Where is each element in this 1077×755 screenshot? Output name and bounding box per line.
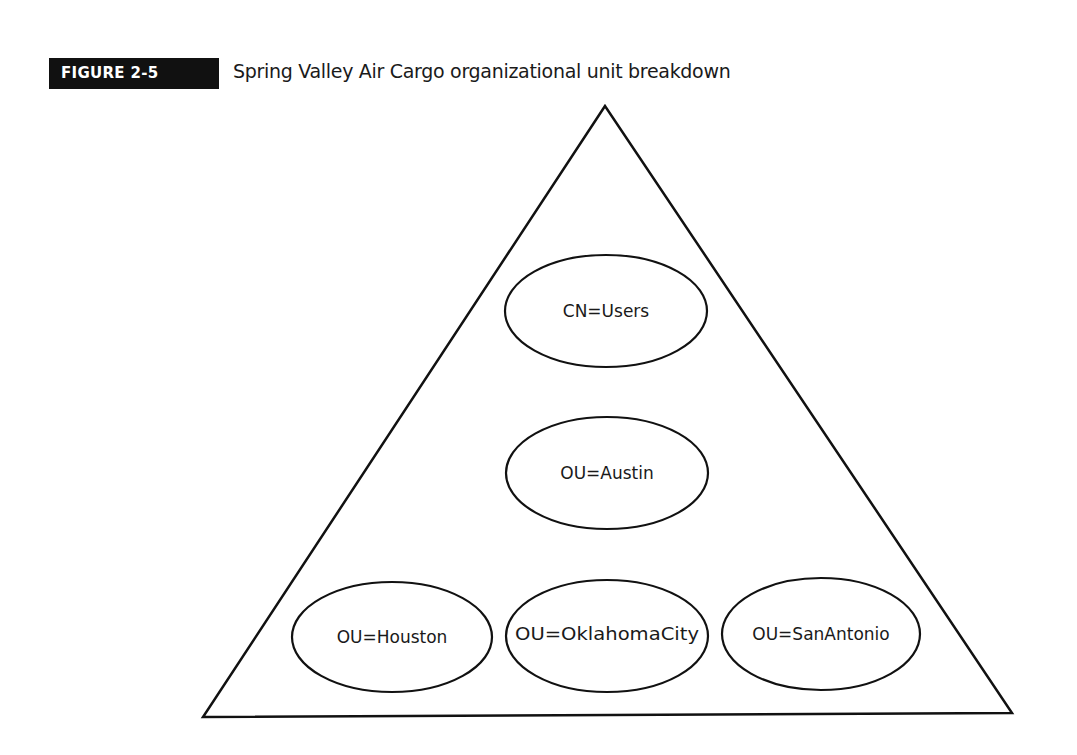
node-label: OU=Austin: [560, 463, 654, 483]
node-users: CN=Users: [505, 255, 707, 367]
node-label: OU=SanAntonio: [752, 624, 889, 644]
node-austin: OU=Austin: [506, 417, 708, 529]
node-houston: OU=Houston: [292, 582, 492, 692]
node-label: OU=OklahomaCity: [515, 624, 699, 644]
node-sanantonio: OU=SanAntonio: [722, 578, 920, 690]
node-label: CN=Users: [563, 301, 650, 321]
node-oklahomacity: OU=OklahomaCity: [506, 580, 708, 692]
ou-breakdown-diagram: CN=Users OU=Austin OU=Houston OU=Oklahom…: [0, 0, 1077, 755]
node-label: OU=Houston: [337, 627, 448, 647]
